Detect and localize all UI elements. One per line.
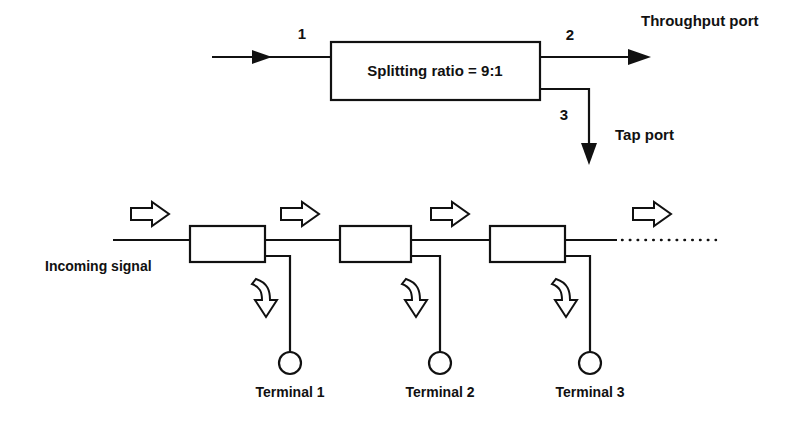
terminal-2-label: Terminal 2 — [406, 384, 475, 400]
throughput-port-label: Throughput port — [641, 12, 758, 29]
coupler-box-1 — [190, 226, 265, 262]
propagation-arrow-4 — [633, 202, 671, 226]
propagation-arrow-3 — [431, 202, 469, 226]
block-arrow-right-icon — [633, 202, 671, 226]
port-3-number: 3 — [560, 106, 568, 123]
terminal-1-label: Terminal 1 — [256, 384, 325, 400]
tap-wire — [540, 89, 589, 157]
tap-port-label: Tap port — [615, 126, 674, 143]
port-1-number: 1 — [298, 25, 306, 42]
propagation-arrow-2 — [281, 202, 319, 226]
splitting-ratio-label: Splitting ratio = 9:1 — [367, 62, 502, 79]
propagation-arrow-1 — [131, 202, 169, 226]
coupler-1-group: Terminal 1 — [190, 226, 325, 400]
upper-diagram-group: Splitting ratio = 9:1 1 2 Throughput por… — [212, 12, 758, 165]
technical-diagram: Splitting ratio = 9:1 1 2 Throughput por… — [0, 0, 805, 426]
coupler-box-2 — [340, 226, 411, 262]
incoming-signal-label: Incoming signal — [45, 258, 152, 274]
figure-canvas: Splitting ratio = 9:1 1 2 Throughput por… — [0, 0, 805, 426]
coupler-2-group: Terminal 2 — [340, 226, 475, 400]
solid-arrowhead-down-icon — [581, 143, 597, 165]
terminal-circle-icon — [579, 352, 601, 374]
block-arrow-right-icon — [281, 202, 319, 226]
terminal-3-label: Terminal 3 — [556, 384, 625, 400]
block-arrow-right-icon — [131, 202, 169, 226]
curved-arrow-down-icon — [552, 279, 577, 317]
terminal-circle-icon — [429, 352, 451, 374]
port-2-number: 2 — [566, 26, 574, 43]
coupler-box-3 — [490, 226, 565, 262]
curved-arrow-down-icon — [252, 279, 277, 317]
solid-arrowhead-right-icon — [252, 50, 272, 64]
curved-arrow-down-icon — [402, 279, 427, 317]
coupler-3-group: Terminal 3 — [490, 226, 625, 400]
terminal-circle-icon — [279, 352, 301, 374]
solid-arrowhead-right-icon — [628, 49, 651, 65]
lower-diagram-group: Incoming signal Terminal 1 — [45, 202, 716, 400]
block-arrow-right-icon — [431, 202, 469, 226]
